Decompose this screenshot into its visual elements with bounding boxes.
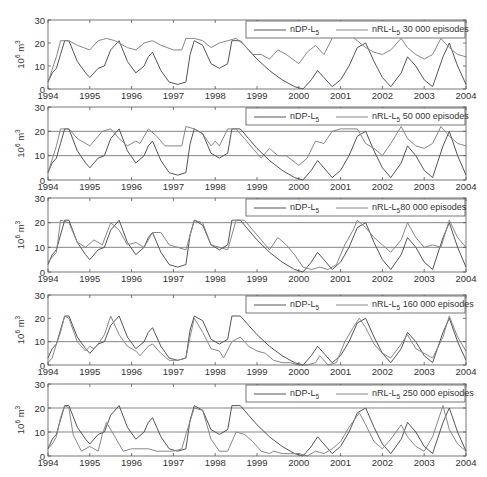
x-tick-label: 1999 — [246, 366, 267, 377]
x-tick-label: 2000 — [288, 181, 309, 192]
x-tick-label: 1997 — [163, 273, 184, 284]
x-tick-label: 1998 — [205, 181, 226, 192]
series-ndp-line — [48, 41, 466, 89]
chart-panel-3: 1994199519961997199819992000200120022003… — [14, 193, 477, 285]
y-tick-label: 0 — [40, 267, 45, 278]
chart-svg: 1994199519961997199819992000200120022003… — [0, 0, 487, 477]
x-tick-label: 2003 — [414, 181, 435, 192]
y-tick-label: 30 — [34, 290, 45, 301]
x-tick-label: 1999 — [246, 457, 267, 468]
x-tick-label: 2001 — [330, 457, 351, 468]
x-tick-label: 2002 — [372, 181, 393, 192]
chart-panel-4: 1994199519961997199819992000200120022003… — [14, 290, 477, 378]
x-tick-label: 1995 — [79, 181, 100, 192]
x-tick-label: 2000 — [288, 90, 309, 101]
x-tick-label: 1997 — [163, 366, 184, 377]
y-tick-label: 0 — [40, 451, 45, 462]
y-axis-label: 106 m3 — [14, 129, 26, 158]
x-tick-label: 1997 — [163, 457, 184, 468]
y-tick-label: 20 — [34, 403, 45, 414]
y-tick-label: 30 — [34, 102, 45, 113]
x-tick-label: 1995 — [79, 273, 100, 284]
y-axis-label: 106 m3 — [14, 315, 26, 344]
x-tick-label: 2004 — [455, 457, 476, 468]
x-tick-label: 2002 — [372, 273, 393, 284]
x-tick-label: 2004 — [455, 181, 476, 192]
y-tick-label: 30 — [34, 379, 45, 390]
legend: nDP-L5nRL-L5 160 000 episodes — [246, 296, 474, 313]
x-tick-label: 2003 — [414, 90, 435, 101]
series-nrl-line — [48, 127, 466, 173]
x-tick-label: 2002 — [372, 90, 393, 101]
x-tick-label: 1996 — [121, 273, 142, 284]
x-tick-label: 1998 — [205, 90, 226, 101]
legend: nDP-L5nRL-L5 50 000 episodes — [246, 108, 469, 125]
x-tick-label: 1995 — [79, 457, 100, 468]
x-tick-label: 1997 — [163, 181, 184, 192]
x-tick-label: 1999 — [246, 90, 267, 101]
series-ndp-line — [48, 406, 466, 456]
x-tick-label: 2004 — [455, 273, 476, 284]
series-nrl-line — [48, 316, 466, 365]
y-tick-label: 10 — [34, 61, 45, 72]
x-tick-label: 1995 — [79, 366, 100, 377]
chart-panel-1: 1994199519961997199819992000200120022003… — [14, 15, 477, 102]
x-tick-label: 2001 — [330, 181, 351, 192]
y-axis-label: 106 m3 — [14, 220, 26, 249]
y-tick-label: 10 — [34, 336, 45, 347]
y-tick-label: 30 — [34, 15, 45, 26]
y-tick-label: 0 — [40, 84, 45, 95]
x-tick-label: 2003 — [414, 457, 435, 468]
x-tick-label: 2001 — [330, 366, 351, 377]
x-tick-label: 2000 — [288, 366, 309, 377]
x-tick-label: 1999 — [246, 273, 267, 284]
chart-panel-2: 1994199519961997199819992000200120022003… — [14, 102, 477, 193]
series-nrl-line — [48, 220, 466, 269]
series-nrl-line — [48, 406, 466, 456]
chart-panel-5: 1994199519961997199819992000200120022003… — [14, 379, 477, 469]
y-tick-label: 30 — [34, 193, 45, 204]
x-tick-label: 2002 — [372, 366, 393, 377]
y-tick-label: 10 — [34, 427, 45, 438]
series-ndp-line — [48, 129, 466, 180]
legend: nDP-L5nRL-L5 30 000 episodes — [246, 21, 469, 38]
y-tick-label: 0 — [40, 175, 45, 186]
x-tick-label: 2003 — [414, 273, 435, 284]
series-ndp-line — [48, 220, 466, 272]
x-tick-label: 1998 — [205, 273, 226, 284]
y-tick-label: 10 — [34, 242, 45, 253]
y-axis-label: 106 m3 — [14, 405, 26, 434]
y-tick-label: 0 — [40, 360, 45, 371]
x-tick-label: 2004 — [455, 90, 476, 101]
legend: nDP-L5nRL-L580 000 episodes — [246, 199, 467, 216]
x-tick-label: 2001 — [330, 273, 351, 284]
x-tick-label: 2004 — [455, 366, 476, 377]
legend: nDP-L5nRL-L5 250 000 episodes — [246, 385, 474, 402]
y-tick-label: 20 — [34, 217, 45, 228]
stacked-chart-figure: 1994199519961997199819992000200120022003… — [0, 0, 487, 477]
x-tick-label: 1996 — [121, 181, 142, 192]
x-tick-label: 2002 — [372, 457, 393, 468]
x-tick-label: 1995 — [79, 90, 100, 101]
x-tick-label: 1996 — [121, 457, 142, 468]
x-tick-label: 2003 — [414, 366, 435, 377]
y-tick-label: 20 — [34, 313, 45, 324]
y-tick-label: 20 — [34, 38, 45, 49]
x-tick-label: 1998 — [205, 457, 226, 468]
y-axis-label: 106 m3 — [14, 40, 26, 69]
x-tick-label: 2001 — [330, 90, 351, 101]
x-tick-label: 1997 — [163, 90, 184, 101]
x-tick-label: 1996 — [121, 90, 142, 101]
y-tick-label: 20 — [34, 126, 45, 137]
x-tick-label: 2000 — [288, 273, 309, 284]
x-tick-label: 2000 — [288, 457, 309, 468]
x-tick-label: 1998 — [205, 366, 226, 377]
y-tick-label: 10 — [34, 150, 45, 161]
x-tick-label: 1999 — [246, 181, 267, 192]
x-tick-label: 1996 — [121, 366, 142, 377]
